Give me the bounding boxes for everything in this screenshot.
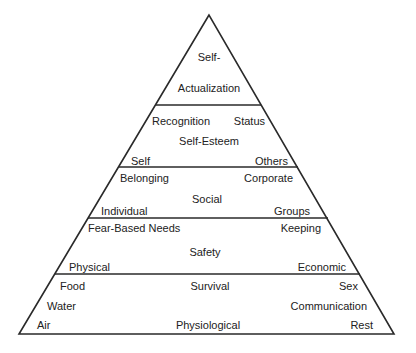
esteem-bottom-left-label: Self: [131, 155, 150, 167]
level-self-actualization-line1: Self-: [198, 51, 221, 63]
physiological-bottom-right-label: Rest: [350, 319, 373, 331]
physiological-bottom-center-label: Physiological: [176, 319, 240, 331]
physiological-middle-left-label: Water: [47, 300, 76, 312]
social-center-label: Social: [192, 193, 222, 205]
social-bottom-left-label: Individual: [101, 205, 147, 217]
physiological-top-right-label: Sex: [339, 280, 358, 292]
safety-bottom-left-label: Physical: [69, 261, 110, 273]
esteem-center-label: Self-Esteem: [179, 135, 239, 147]
esteem-top-right-label: Status: [234, 115, 265, 127]
level-self-actualization-line2: Actualization: [178, 82, 240, 94]
physiological-middle-right-label: Communication: [291, 300, 367, 312]
social-top-left-label: Belonging: [120, 172, 169, 184]
physiological-top-left-label: Food: [60, 280, 85, 292]
safety-bottom-right-label: Economic: [298, 261, 346, 273]
esteem-top-left-label: Recognition: [152, 115, 210, 127]
esteem-bottom-right-label: Others: [255, 155, 288, 167]
physiological-bottom-left-label: Air: [37, 319, 50, 331]
safety-top-left-label: Fear-Based Needs: [88, 222, 180, 234]
physiological-top-center-label: Survival: [190, 280, 229, 292]
pyramid-diagram: Self- Actualization Recognition Status S…: [0, 0, 416, 353]
safety-center-label: Safety: [189, 246, 220, 258]
social-bottom-right-label: Groups: [274, 205, 310, 217]
safety-top-right-label: Keeping: [281, 222, 321, 234]
social-top-right-label: Corporate: [244, 172, 293, 184]
